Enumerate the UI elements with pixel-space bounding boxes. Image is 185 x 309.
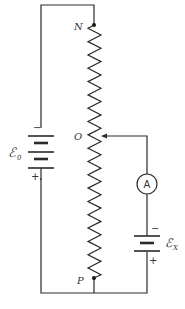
wire-left-top [41, 5, 94, 128]
wire-left-bottom [41, 178, 147, 293]
battery-e0-label: ℰ [8, 145, 17, 160]
battery-e0-plus: + [31, 171, 39, 182]
battery-ex-subscript: X [172, 244, 179, 252]
battery-ex-plus: + [149, 255, 157, 266]
ammeter-label: A [144, 179, 151, 190]
battery-e0-subscript: 0 [17, 154, 22, 162]
node-p-label: P [76, 275, 84, 286]
node-o-label: O [74, 131, 82, 142]
wire-contact-right [103, 136, 147, 174]
node-n-label: N [73, 21, 84, 32]
resistor-zigzag [88, 25, 101, 278]
battery-ex-minus: − [151, 223, 159, 234]
circuit-diagram: A − + ℰ 0 − + ℰ X N O P [0, 0, 185, 309]
battery-e0-minus: − [33, 122, 41, 133]
slider-arrow-icon [101, 134, 107, 139]
battery-e0: − + ℰ 0 [8, 122, 54, 182]
battery-ex: − + ℰ X [134, 223, 179, 266]
